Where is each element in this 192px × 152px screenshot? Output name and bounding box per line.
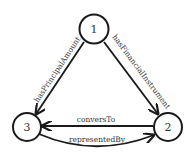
edge-1-to-3: hasPrincipalAmount <box>32 35 84 114</box>
node-2-label: 2 <box>165 121 172 134</box>
node-3: 3 <box>13 113 41 141</box>
node-1-label: 1 <box>91 23 98 36</box>
node-2: 2 <box>154 113 182 141</box>
edge-1-to-2: hasFinancialInstrument <box>104 33 172 114</box>
edge-label-represented-by: representedBy <box>69 135 126 144</box>
graph-diagram: hasPrincipalAmount hasFinancialInstrumen… <box>0 0 192 152</box>
node-3-label: 3 <box>24 121 31 134</box>
edge-3-to-2: representedBy <box>39 134 154 146</box>
edge-label-has-financial-instrument: hasFinancialInstrument <box>110 33 172 111</box>
node-1: 1 <box>80 15 109 44</box>
edge-2-to-3: conversTo <box>42 115 153 126</box>
edge-label-has-principal-amount: hasPrincipalAmount <box>32 35 82 104</box>
edge-label-convers-to: conversTo <box>77 115 116 124</box>
